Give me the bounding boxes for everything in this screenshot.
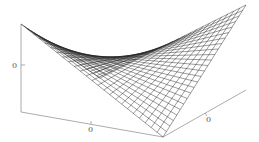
surface-mesh bbox=[21, 5, 246, 137]
mesh-line-u bbox=[157, 8, 240, 132]
y-tick-label: 0 bbox=[206, 115, 211, 124]
mesh-line-u bbox=[163, 5, 246, 137]
z-tick-label: 0 bbox=[12, 61, 17, 70]
mesh-line-v bbox=[84, 33, 229, 67]
surface-plot: 0 0 0 bbox=[0, 0, 259, 142]
mesh-line-v bbox=[74, 49, 219, 60]
y-axis-line bbox=[163, 90, 246, 137]
mesh-line-v bbox=[100, 5, 246, 78]
mesh-line-u bbox=[145, 14, 228, 123]
mesh-line-v bbox=[80, 38, 225, 65]
mesh-line-u bbox=[139, 17, 221, 118]
x-tick-label: 0 bbox=[88, 125, 93, 134]
mesh-line-u bbox=[116, 29, 198, 99]
